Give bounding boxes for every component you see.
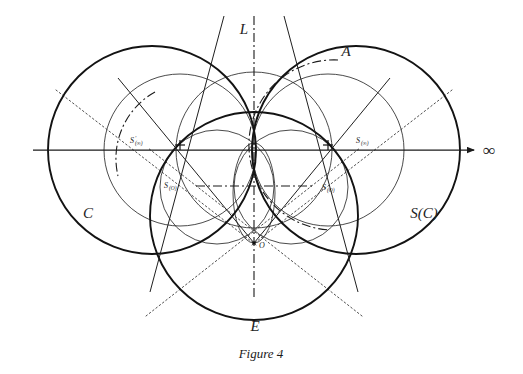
- label-s-o-right-main: S: [322, 183, 326, 192]
- label-s-o-left-main: S: [164, 181, 168, 190]
- figure-caption: Figure 4: [238, 346, 284, 361]
- figure-4-svg: L A C S(C) E ∞ O S ′ (∞) S (∞) S (O) S (…: [0, 0, 523, 374]
- label-s-inf-sub: (∞): [361, 140, 369, 147]
- label-curve-E: E: [249, 318, 259, 334]
- label-s-o-left-sub: (O): [169, 185, 177, 192]
- label-s-inf-prime-main: S: [130, 136, 134, 145]
- label-s-o-right-sub: (O): [327, 187, 335, 194]
- label-point-O: O: [259, 241, 265, 250]
- label-curve-SC: S(C): [410, 205, 438, 222]
- label-s-inf-prime-sub: (∞): [135, 140, 143, 147]
- label-s-inf-main: S: [356, 136, 360, 145]
- label-arc-A: A: [340, 43, 351, 59]
- point-O-node: [252, 241, 256, 245]
- label-curve-C: C: [83, 205, 94, 221]
- label-line-L: L: [239, 21, 248, 37]
- label-infinity: ∞: [483, 141, 495, 160]
- figure-4-container: L A C S(C) E ∞ O S ′ (∞) S (∞) S (O) S (…: [0, 0, 523, 374]
